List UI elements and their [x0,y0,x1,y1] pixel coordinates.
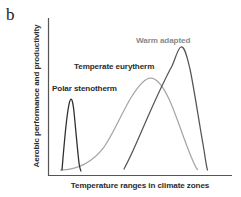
x-axis-title: Temperature ranges in climate zones [48,181,232,190]
curve-label-temperate-eurytherm: Temperate eurytherm [74,62,154,71]
curve-label-polar-stenotherm: Polar stenotherm [52,84,117,93]
curve-label-warm-adapted: Warm adapted [136,36,190,45]
curve-polar-stenotherm [62,99,81,171]
thermal-performance-figure: b Aerobic performance and productivity T… [0,0,241,197]
y-axis-title: Aerobic performance and productivity [30,16,43,176]
